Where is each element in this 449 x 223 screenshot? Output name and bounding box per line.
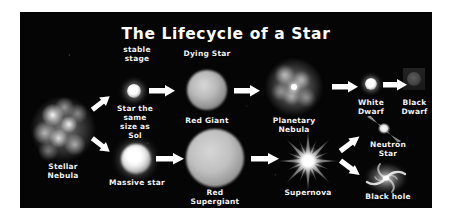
label-red-giant: Red Giant xyxy=(175,116,239,125)
pulsar-icon xyxy=(364,116,404,142)
red-giant-sphere-icon xyxy=(187,70,227,110)
label-black-dwarf: Black Dwarf xyxy=(392,98,432,116)
red-supergiant-sphere-icon xyxy=(186,129,244,187)
label-stable-stage: stable stage xyxy=(108,45,166,63)
label-black-hole: Black hole xyxy=(356,192,420,201)
black-hole-spiral-icon xyxy=(362,160,410,196)
arrow-right-icon-split-down xyxy=(336,154,364,182)
star-lifecycle-diagram: The Lifecycle of a Star Stellar Nebula s… xyxy=(0,0,449,223)
arrow-right-icon-3 xyxy=(331,76,359,98)
space-background-panel: The Lifecycle of a Star Stellar Nebula s… xyxy=(20,12,432,208)
massive-star-icon xyxy=(121,144,151,174)
label-supernova: Supernova xyxy=(274,188,342,197)
label-neutron-star: Neutron Star xyxy=(360,140,416,158)
arrow-right-icon-1 xyxy=(148,80,176,102)
label-massive-star: Massive star xyxy=(103,178,171,187)
label-planetary-nebula: Planetary Nebula xyxy=(263,116,325,134)
label-white-dwarf: White Dwarf xyxy=(347,98,395,116)
black-dwarf-icon xyxy=(407,72,421,86)
arrow-right-icon-4 xyxy=(382,74,408,96)
label-red-supergiant: Red Supergiant xyxy=(183,188,247,206)
label-stellar-nebula: Stellar Nebula xyxy=(28,162,98,180)
diagram-title: The Lifecycle of a Star xyxy=(20,25,432,43)
planetary-nebula-core-icon xyxy=(291,84,297,90)
label-sun-like-star: Star the same size as Sol xyxy=(104,104,166,140)
arrow-right-icon-2 xyxy=(233,80,261,102)
label-dying-star: Dying Star xyxy=(166,49,248,58)
supernova-burst-icon xyxy=(275,128,341,194)
arrow-right-icon-5 xyxy=(155,148,185,170)
white-dwarf-icon xyxy=(365,78,377,90)
arrow-right-icon-6 xyxy=(250,148,280,170)
small-star-icon xyxy=(127,84,141,98)
